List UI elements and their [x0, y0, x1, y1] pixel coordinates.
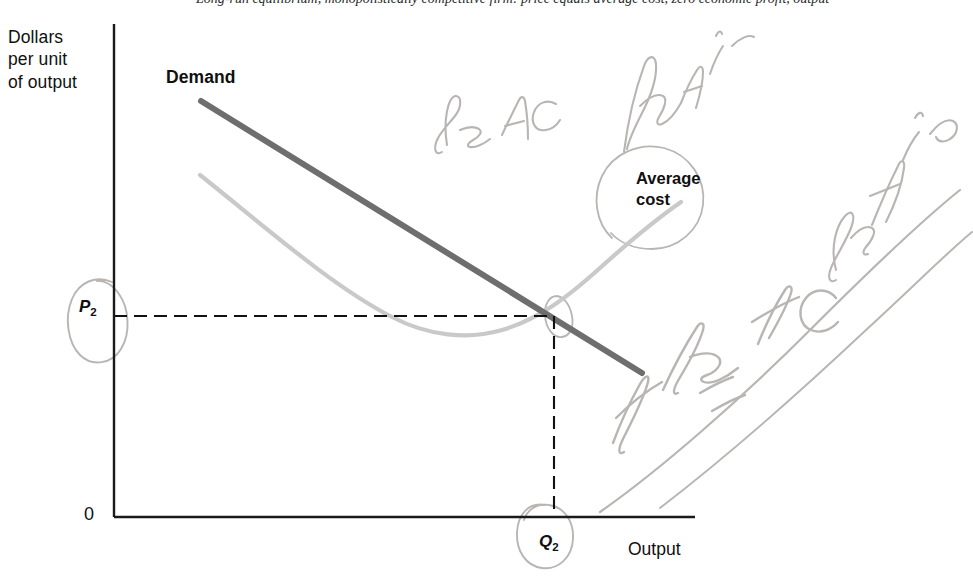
chart-layer — [0, 0, 973, 588]
origin-label: 0 — [84, 503, 94, 526]
quantity-marker-letter: Q — [539, 532, 552, 551]
average-cost-curve — [200, 175, 681, 335]
demand-curve — [201, 101, 642, 373]
y-axis-label: Dollars per unit of output — [8, 26, 77, 93]
price-marker-subscript: 2 — [90, 306, 96, 318]
quantity-axis-marker: Q2 — [539, 531, 559, 555]
price-axis-marker: P2 — [79, 296, 97, 320]
average-cost-curve-label: Average cost — [636, 168, 701, 210]
x-axis-label: Output — [628, 538, 681, 560]
price-marker-letter: P — [79, 297, 90, 316]
demand-curve-label: Demand — [166, 66, 236, 88]
economics-diagram: Long-run equilibrium, monopolistically c… — [0, 0, 973, 588]
quantity-marker-subscript: 2 — [552, 541, 558, 553]
